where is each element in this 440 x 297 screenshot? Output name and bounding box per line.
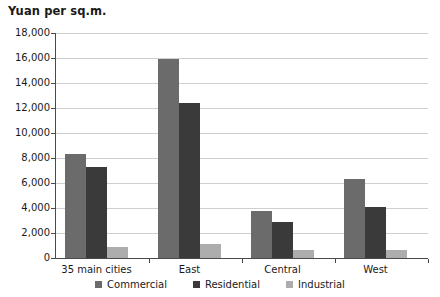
gridline [56,83,428,84]
bar-chart: Yuan per sq.m. 18,00016,00014,00012,0001… [0,0,440,297]
bar-industrial-35-main-cities [107,247,128,258]
x-tick-mark [335,259,336,263]
gridline [56,33,428,34]
x-tick-mark [242,259,243,263]
bar-industrial-west [386,250,407,258]
bar-commercial-central [251,211,272,258]
bar-commercial-west [344,179,365,258]
bar-commercial-east [158,59,179,258]
legend-label: Commercial [107,279,167,290]
y-tick-label: 0 [4,253,50,263]
bar-industrial-central [293,250,314,258]
x-tick-label-west: West [316,264,436,275]
y-tick-mark [51,208,56,209]
y-tick-mark [51,158,56,159]
legend-item-industrial[interactable]: Industrial [286,279,345,290]
y-tick-mark [51,133,56,134]
y-axis-ticks: 18,00016,00014,00012,00010,0008,0006,000… [0,0,50,297]
gridline [56,158,428,159]
y-tick-label: 12,000 [4,103,50,113]
gridline [56,133,428,134]
y-tick-label: 6,000 [4,178,50,188]
legend-label: Industrial [298,279,345,290]
bar-industrial-east [200,244,221,258]
legend-item-residential[interactable]: Residential [193,279,260,290]
bar-residential-35-main-cities [86,167,107,258]
bar-residential-central [272,222,293,258]
gridline [56,183,428,184]
legend-swatch-residential [193,281,200,288]
y-tick-mark [51,33,56,34]
legend-item-commercial[interactable]: Commercial [95,279,167,290]
y-tick-label: 14,000 [4,78,50,88]
x-tick-mark [428,259,429,263]
y-tick-label: 4,000 [4,203,50,213]
y-tick-label: 18,000 [4,28,50,38]
legend-label: Residential [205,279,260,290]
bar-residential-east [179,103,200,258]
legend-swatch-industrial [286,281,293,288]
y-tick-mark [51,233,56,234]
y-tick-label: 8,000 [4,153,50,163]
y-tick-mark [51,258,56,259]
y-tick-label: 16,000 [4,53,50,63]
chart-legend: CommercialResidentialIndustrial [0,279,440,290]
y-tick-label: 10,000 [4,128,50,138]
y-tick-mark [51,58,56,59]
y-tick-mark [51,108,56,109]
y-tick-mark [51,83,56,84]
y-tick-mark [51,183,56,184]
legend-swatch-commercial [95,281,102,288]
y-tick-label: 2,000 [4,228,50,238]
bar-commercial-35-main-cities [65,154,86,258]
x-tick-mark [149,259,150,263]
gridline [56,108,428,109]
bar-residential-west [365,207,386,258]
plot-area [56,33,428,258]
y-axis-line [55,33,56,259]
gridline [56,58,428,59]
